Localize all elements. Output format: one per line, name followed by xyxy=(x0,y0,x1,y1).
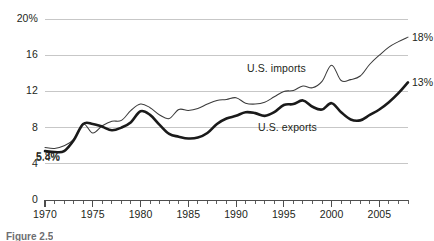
y-axis-tick-label: 4 xyxy=(4,158,38,169)
x-axis-tick-label: 2000 xyxy=(312,209,352,220)
y-axis-tick-label: 20% xyxy=(4,13,38,24)
x-axis-tick-label: 1995 xyxy=(264,209,304,220)
x-axis-tick-label: 1970 xyxy=(25,209,65,220)
figure-caption: Figure 2.5 xyxy=(6,231,53,241)
x-axis-tick-label: 2005 xyxy=(359,209,399,220)
series-label-us-imports: U.S. imports xyxy=(247,62,306,74)
start-annotation-exports: 5.4% xyxy=(36,151,60,163)
x-axis-tick-label: 1975 xyxy=(73,209,113,220)
y-axis-tick-label: 0 xyxy=(4,194,38,205)
chart-container: 048121620% 19701975198019851990199520002… xyxy=(0,0,434,241)
y-axis-tick-label: 8 xyxy=(4,122,38,133)
line-chart-plot xyxy=(0,0,434,241)
endpoint-label-imports: 18% xyxy=(412,31,433,43)
series-label-us-exports: U.S. exports xyxy=(258,121,317,133)
x-axis-ticks-group xyxy=(45,200,408,207)
gridlines-group xyxy=(45,19,408,200)
x-axis-tick-label: 1990 xyxy=(216,209,256,220)
x-axis-tick-label: 1980 xyxy=(121,209,161,220)
endpoint-label-exports: 13% xyxy=(412,76,433,88)
y-axis-tick-label: 16 xyxy=(4,49,38,60)
series-line-u-s-imports xyxy=(45,37,408,148)
series-paths-group xyxy=(45,37,408,152)
x-axis-tick-label: 1985 xyxy=(168,209,208,220)
series-line-u-s-exports xyxy=(45,82,408,152)
y-axis-tick-label: 12 xyxy=(4,85,38,96)
